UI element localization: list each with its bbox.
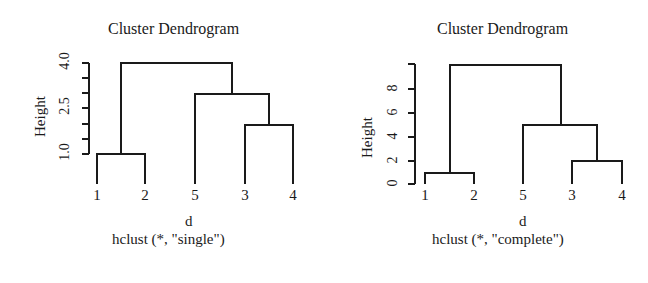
leaf-label: 4 xyxy=(616,187,628,204)
y-axis-label: Height xyxy=(359,117,376,158)
leaf-label: 1 xyxy=(91,187,103,204)
dendrogram-single-panel: Cluster Dendrogram Height 1.0 2.5 4.0 1 … xyxy=(0,0,324,283)
y-tick-label: 2.5 xyxy=(57,91,73,121)
leaf-label: 3 xyxy=(566,187,578,204)
leaf-label: 2 xyxy=(139,187,151,204)
leaf-label: 4 xyxy=(287,187,299,204)
dendrogram-complete-panel: Cluster Dendrogram Height 0 2 4 6 8 1 2 … xyxy=(324,0,648,283)
x-axis-label: d xyxy=(185,213,193,230)
chart-title: Cluster Dendrogram xyxy=(108,20,239,38)
chart-subtitle: hclust (*, "complete") xyxy=(432,231,564,248)
y-tick-label: 4.0 xyxy=(57,46,73,76)
leaf-label: 1 xyxy=(419,187,431,204)
y-axis-label: Height xyxy=(32,96,49,137)
y-tick-label: 1.0 xyxy=(57,137,73,167)
chart-title: Cluster Dendrogram xyxy=(437,20,568,38)
leaf-label: 5 xyxy=(517,187,529,204)
y-tick-label: 8 xyxy=(385,73,401,103)
leaf-label: 5 xyxy=(189,187,201,204)
leaf-label: 3 xyxy=(239,187,251,204)
chart-subtitle: hclust (*, "single") xyxy=(112,231,225,248)
leaf-label: 2 xyxy=(468,187,480,204)
x-axis-label: d xyxy=(519,213,527,230)
